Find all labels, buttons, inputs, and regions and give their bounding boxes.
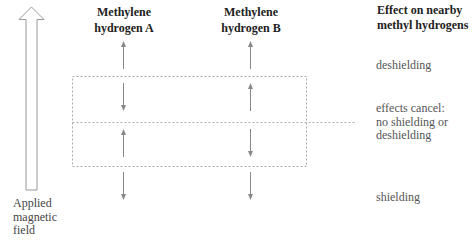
- column-b-arrows: [248, 41, 253, 200]
- column-a-title-line-1: Methylene: [94, 4, 153, 20]
- arrow-down-icon: [248, 129, 253, 157]
- effect-title-line-2: methyl hydrogens: [377, 18, 468, 33]
- arrow-up-icon: [248, 83, 253, 111]
- arrow-up-icon: [121, 129, 126, 157]
- column-a-title: Methylene hydrogen A: [94, 4, 153, 36]
- effect-column-title: Effect on nearby methyl hydrogens: [377, 3, 468, 33]
- column-a-title-line-2: hydrogen A: [94, 20, 153, 36]
- applied-field-label-line-3: field: [13, 224, 57, 238]
- effect-label-deshielding: deshielding: [376, 59, 431, 73]
- applied-field-arrow-icon: [19, 7, 44, 190]
- effect-title-line-1: Effect on nearby: [377, 3, 468, 18]
- column-b-title-line-1: Methylene: [221, 4, 280, 20]
- effect-label-shielding-text: shielding: [376, 191, 420, 205]
- effect-label-deshielding-text: deshielding: [376, 59, 431, 73]
- dotted-region-box: [73, 77, 307, 167]
- arrow-down-icon: [248, 172, 253, 200]
- effect-label-cancel-line-1: effects cancel:: [376, 102, 448, 116]
- arrow-down-icon: [121, 172, 126, 200]
- column-b-title: Methylene hydrogen B: [221, 4, 280, 36]
- column-b-title-line-2: hydrogen B: [221, 20, 280, 36]
- arrow-up-icon: [248, 41, 253, 69]
- applied-field-label: Applied magnetic field: [13, 197, 57, 238]
- arrow-down-icon: [121, 83, 126, 111]
- applied-field-label-line-2: magnetic: [13, 211, 57, 225]
- column-a-arrows: [121, 41, 126, 200]
- effect-label-cancel: effects cancel: no shielding or deshield…: [376, 102, 448, 143]
- effect-label-shielding: shielding: [376, 191, 420, 205]
- applied-field-label-line-1: Applied: [13, 197, 57, 211]
- effect-label-cancel-line-2: no shielding or: [376, 116, 448, 130]
- effect-label-cancel-line-3: deshielding: [376, 129, 448, 143]
- arrow-up-icon: [121, 41, 126, 69]
